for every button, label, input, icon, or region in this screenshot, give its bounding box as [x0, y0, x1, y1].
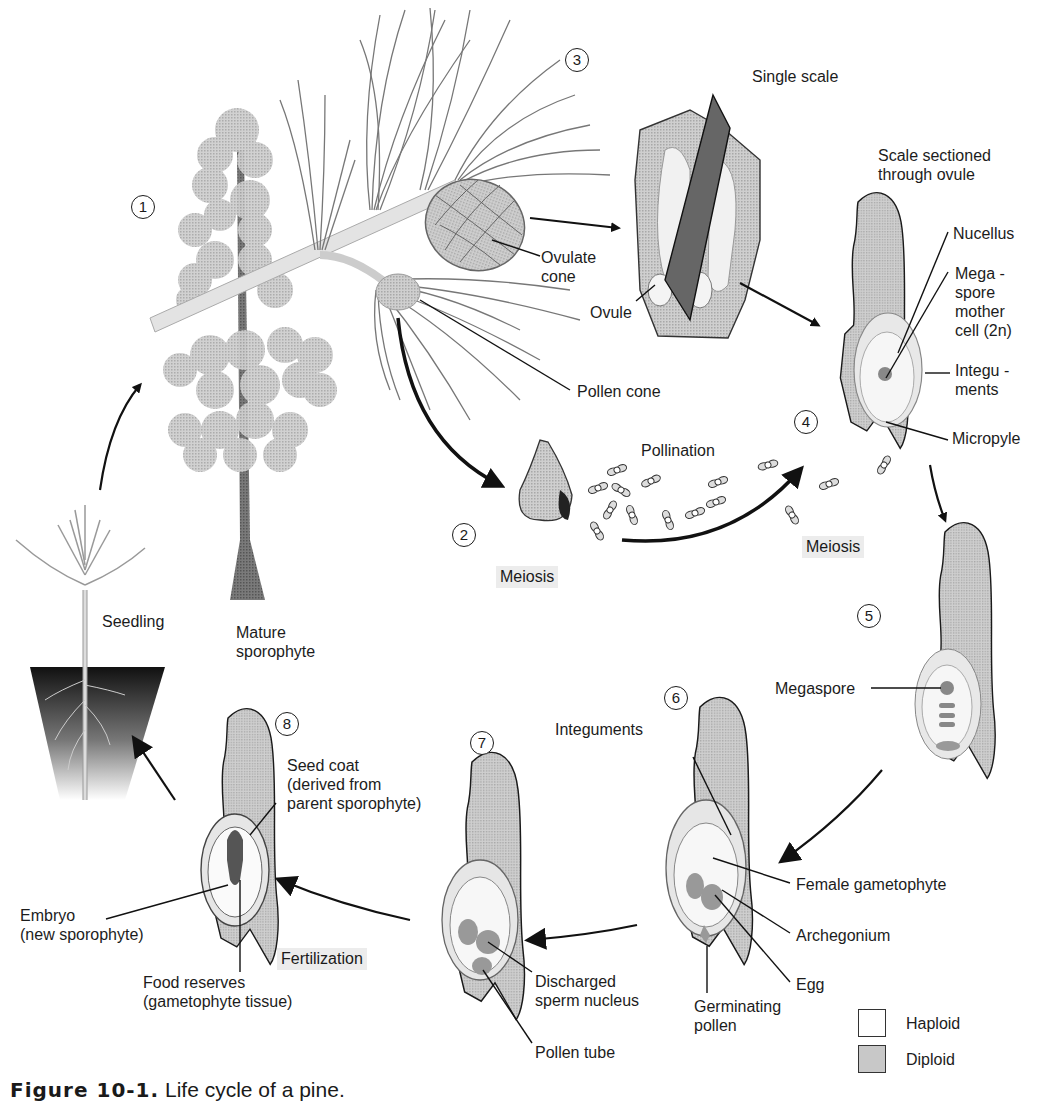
label-ovulate-cone: Ovulate cone [541, 248, 596, 286]
label-megaspore-mother-cell: Mega - spore mother cell (2n) [955, 264, 1012, 340]
label-discharged-sperm-nucleus: Discharged sperm nucleus [535, 972, 639, 1010]
label-pollen-tube: Pollen tube [535, 1043, 615, 1062]
label-germinating-pollen: Germinating pollen [694, 997, 781, 1035]
label-seedling: Seedling [102, 612, 164, 631]
step-number-2: 2 [452, 523, 476, 547]
label-embryo: Embryo (new sporophyte) [20, 906, 144, 944]
label-pollen-cone: Pollen cone [577, 382, 661, 401]
diploid-swatch-icon [858, 1045, 886, 1073]
seedling [16, 505, 165, 800]
label-seed-coat: Seed coat (derived from parent sporophyt… [287, 756, 421, 813]
step-number-4: 4 [794, 410, 818, 434]
label-female-gametophyte: Female gametophyte [796, 875, 946, 894]
ovule-stage-7 [442, 752, 524, 1019]
process-fertilization: Fertilization [277, 948, 367, 970]
label-nucellus: Nucellus [953, 224, 1014, 243]
pollen-sac [519, 440, 572, 521]
pollen-grains [587, 455, 892, 542]
label-food-reserves: Food reserves (gametophyte tissue) [143, 973, 292, 1011]
figure-number: Figure 10-1. [10, 1078, 159, 1102]
process-meiosis-pollen: Meiosis [496, 566, 558, 588]
step-number-3: 3 [565, 48, 589, 72]
label-integuments-6: Integuments [555, 720, 643, 739]
label-pollination: Pollination [641, 441, 715, 460]
haploid-swatch-icon [858, 1009, 886, 1037]
label-micropyle: Micropyle [952, 429, 1020, 448]
figure-caption-text: Life cycle of a pine. [165, 1078, 345, 1101]
ovule-stage-6 [666, 697, 752, 964]
step-number-5: 5 [857, 604, 881, 628]
label-mature-sporophyte: Mature sporophyte [236, 623, 315, 661]
legend-label: Haploid [906, 1014, 960, 1033]
legend: Haploid Diploid [858, 1005, 960, 1077]
label-integuments-4: Integu - ments [955, 361, 1009, 399]
label-single-scale: Single scale [752, 67, 838, 86]
label-archegonium: Archegonium [796, 926, 890, 945]
step-number-6: 6 [664, 686, 688, 710]
label-ovule: Ovule [590, 303, 632, 322]
legend-item-haploid: Haploid [858, 1005, 960, 1041]
label-megaspore: Megaspore [775, 679, 855, 698]
single-scale [635, 95, 760, 338]
legend-item-diploid: Diploid [858, 1041, 960, 1077]
legend-label: Diploid [906, 1050, 955, 1069]
ovule-stage-4 [840, 193, 922, 449]
label-egg: Egg [796, 975, 824, 994]
process-meiosis-ovule: Meiosis [802, 536, 864, 558]
step-number-1: 1 [131, 195, 155, 219]
label-scale-sectioned: Scale sectioned through ovule [878, 146, 991, 184]
figure-caption: Figure 10-1. Life cycle of a pine. [10, 1078, 345, 1102]
step-number-8: 8 [275, 712, 299, 736]
step-number-7: 7 [470, 731, 494, 755]
ovule-stage-5 [915, 523, 995, 779]
